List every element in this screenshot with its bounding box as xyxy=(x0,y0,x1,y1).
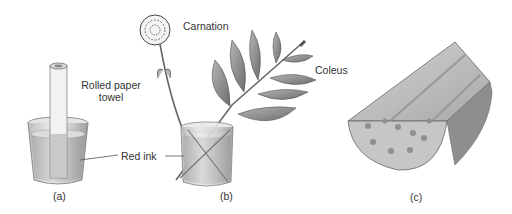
caption-a: (a) xyxy=(53,190,66,202)
caption-c: (c) xyxy=(410,191,422,203)
label-coleus: Coleus xyxy=(315,64,348,76)
label-rolled-paper-towel: Rolled paper towel xyxy=(76,79,146,103)
label-red-ink: Red ink xyxy=(121,150,157,162)
label-towel-line2: towel xyxy=(99,91,124,103)
panel-b-plants xyxy=(140,15,316,186)
caption-b: (b) xyxy=(220,190,233,202)
diagram-artwork xyxy=(0,0,512,214)
panel-c-stem-section xyxy=(348,42,492,170)
label-towel-line1: Rolled paper xyxy=(81,79,141,91)
diagram: Rolled paper towel Red ink Carnation Col… xyxy=(0,0,512,214)
label-carnation: Carnation xyxy=(183,20,229,32)
